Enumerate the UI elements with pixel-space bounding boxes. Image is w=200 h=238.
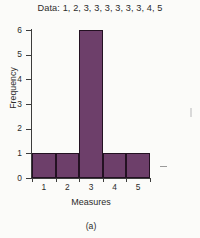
y-axis-tick-label: 6 [0,26,22,34]
scan-artifact [190,108,192,117]
histogram-figure: Data: 1, 2, 3, 3, 3, 3, 3, 3, 4, 5 Frequ… [0,0,200,238]
figure-caption: (a) [0,221,182,231]
y-axis-tick [26,55,31,56]
y-axis-tick-label: 4 [0,75,22,83]
x-axis-tick-label: 2 [56,183,80,191]
y-axis-tick [26,129,31,130]
bar [32,153,56,178]
x-axis-tick [56,178,57,182]
chart-title: Data: 1, 2, 3, 3, 3, 3, 3, 3, 4, 5 [0,3,200,13]
x-axis-title: Measures [0,197,182,207]
x-axis-tick-label: 4 [103,183,127,191]
bar [79,30,103,178]
y-axis-tick [26,79,31,80]
x-axis-tick [150,178,151,182]
y-axis-tick [26,104,31,105]
y-axis-tick-label: 3 [0,100,22,108]
bar [126,153,150,178]
y-axis-tick-label: 5 [0,50,22,58]
bar [103,153,127,178]
x-axis-line [31,178,151,179]
y-axis-tick [26,30,31,31]
x-axis-tick-label: 1 [32,183,56,191]
y-axis-tick [26,153,31,154]
x-axis-tick-label: 3 [79,183,103,191]
x-axis-tick [126,178,127,182]
y-axis-tick-label: 0 [0,174,22,182]
y-axis-tick [26,178,31,179]
x-axis-tick [79,178,80,182]
bar-group [32,30,150,178]
bar [56,153,80,178]
y-axis-title: Frequency [8,48,18,128]
y-axis-tick-label: 2 [0,124,22,132]
x-axis-tick [32,178,33,182]
x-axis-tick-label: 5 [126,183,150,191]
x-axis-tick [103,178,104,182]
y-axis-tick-label: 1 [0,149,22,157]
scan-artifact [160,166,167,167]
